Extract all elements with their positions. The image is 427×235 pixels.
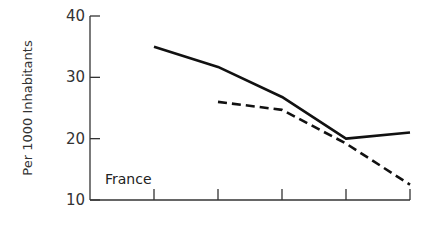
y-tick-label: 20 <box>66 130 85 148</box>
line-chart: 10203040 Per 1000 Inhabitants France <box>0 0 427 235</box>
dashed-series-line <box>218 102 410 185</box>
y-axis-label: Per 1000 Inhabitants <box>20 40 35 176</box>
series-group <box>154 47 410 185</box>
solid-series-line <box>154 47 410 139</box>
y-tick-label: 10 <box>66 191 85 209</box>
y-tick-label: 30 <box>66 68 85 86</box>
y-tick-label: 40 <box>66 7 85 25</box>
panel-label-france: France <box>105 171 152 187</box>
